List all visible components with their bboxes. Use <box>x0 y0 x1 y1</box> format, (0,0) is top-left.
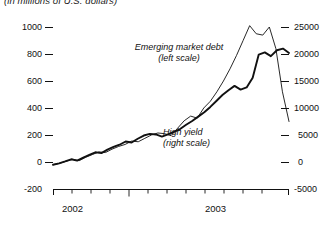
chart-figure: (in millions of U.S. dollars) 1000 800 6… <box>0 0 334 242</box>
series-line-high-yield <box>53 49 289 165</box>
x-axis-ticks-group <box>72 190 262 197</box>
series-line-emerging-market-debt <box>53 26 289 165</box>
x-axis-line-group <box>53 190 289 196</box>
chart-plot-svg <box>0 0 334 242</box>
